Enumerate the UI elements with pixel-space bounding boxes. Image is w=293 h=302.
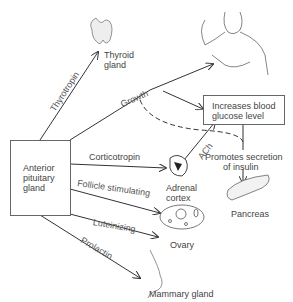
glucose-effect-box: Increases blood glucose level <box>203 95 285 125</box>
insulin-label: Promotes secretion <box>205 152 283 162</box>
pancreas-icon <box>227 175 269 200</box>
adrenal-label-2: cortex <box>166 193 191 203</box>
thyrotropin-arrow <box>40 52 98 140</box>
ovary-icon <box>160 205 204 229</box>
thyroid-label: Thyroid <box>104 50 134 60</box>
human-torso-icon <box>202 12 269 75</box>
anterior-pituitary-box: Anterior pituitary gland <box>10 140 71 216</box>
thyroid-label-2: gland <box>104 60 126 70</box>
growth-arrow-body <box>150 64 213 90</box>
insulin-label-2: of insulin <box>223 162 259 172</box>
ovary-label: Ovary <box>170 240 194 250</box>
adrenal-label: Adrenal <box>166 183 197 193</box>
growth-arrow-glucose <box>163 91 203 109</box>
pancreas-label: Pancreas <box>231 209 269 219</box>
adrenal-cortex-icon <box>170 155 187 176</box>
thyroid-gland-icon <box>91 18 112 44</box>
corticotropin-label: Corticotropin <box>89 152 140 162</box>
mammary-label: Mammary gland <box>149 289 214 299</box>
